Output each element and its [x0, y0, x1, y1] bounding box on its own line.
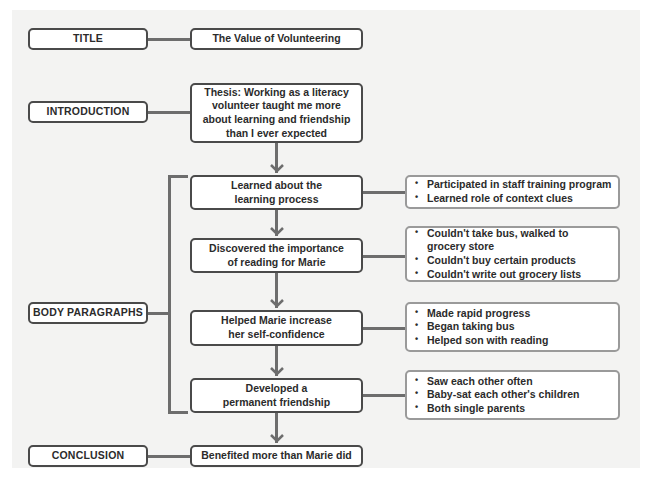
detail-connector-4: [363, 394, 406, 397]
detail-item: Helped son with reading: [415, 334, 548, 348]
arrow-down-icon: [270, 367, 284, 376]
connector-title: [148, 38, 190, 41]
detail-box-2: Couldn't take bus, walked to grocery sto…: [405, 226, 620, 282]
arrow-down-icon: [270, 299, 284, 308]
arrow-down-icon: [270, 227, 284, 236]
label-body-paragraphs: BODY PARAGRAPHS: [28, 302, 148, 324]
detail-item: Began taking bus: [415, 320, 548, 334]
detail-connector-1: [363, 191, 406, 194]
detail-item: Participated in staff training program: [415, 178, 611, 192]
detail-item: Saw each other often: [415, 375, 579, 389]
connector-introduction: [148, 111, 190, 114]
detail-connector-2: [363, 255, 406, 258]
detail-item: Both single parents: [415, 402, 579, 416]
detail-item: Baby-sat each other's children: [415, 388, 579, 402]
detail-box-1: Participated in staff training program L…: [405, 175, 620, 209]
detail-box-4: Saw each other often Baby-sat each other…: [405, 370, 620, 420]
detail-connector-3: [363, 327, 406, 330]
label-conclusion: CONCLUSION: [28, 445, 148, 467]
connector-body: [148, 312, 169, 315]
body-topic-4: Developed a permanent friendship: [190, 378, 363, 413]
body-topic-1: Learned about the learning process: [190, 175, 363, 210]
detail-box-3: Made rapid progress Began taking bus Hel…: [405, 302, 620, 352]
detail-item: Made rapid progress: [415, 307, 548, 321]
label-introduction: INTRODUCTION: [28, 101, 148, 123]
body-bracket: [168, 175, 171, 414]
bracket-top: [168, 175, 188, 178]
arrow-down-icon: [270, 164, 284, 173]
body-topic-2: Discovered the importance of reading for…: [190, 238, 363, 273]
detail-item: Learned role of context clues: [415, 192, 611, 206]
connector-conclusion: [148, 455, 190, 458]
body-topic-3: Helped Marie increase her self-confidenc…: [190, 310, 363, 346]
thesis-box: Thesis: Working as a literacy volunteer …: [190, 83, 363, 143]
arrow-down-icon: [270, 434, 284, 443]
title-content-box: The Value of Volunteering: [190, 28, 363, 50]
conclusion-content-box: Benefited more than Marie did: [190, 445, 363, 467]
bracket-bottom: [168, 411, 188, 414]
detail-item: Couldn't take bus, walked to grocery sto…: [415, 227, 618, 254]
detail-item: Couldn't buy certain products: [415, 254, 618, 268]
label-title: TITLE: [28, 28, 148, 50]
detail-item: Couldn't write out grocery lists: [415, 268, 618, 282]
